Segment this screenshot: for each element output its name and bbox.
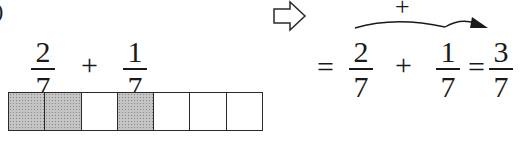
bar-model [8,92,263,131]
left-fraction-b-numerator: 1 [128,38,143,66]
right-fraction-a-numerator: 2 [354,38,369,66]
right-fraction-a-denominator: 7 [354,73,369,101]
right-fraction-a: 2 7 [349,38,373,101]
hollow-right-arrow-icon [272,0,308,34]
left-fraction-a-numerator: 2 [36,38,51,66]
bar-cell-3 [82,93,118,130]
bar-cell-7 [227,93,262,130]
bar-cell-1-shaded [9,93,45,130]
bar-cell-6 [190,93,226,130]
bar-cell-5 [154,93,190,130]
result-denominator: 7 [494,73,509,101]
bar-cell-2-shaded [45,93,81,130]
right-equals-1: = [317,52,334,82]
right-plus-operator: + [395,50,412,80]
result-fraction: 3 7 [489,38,513,101]
left-plus-operator: + [81,50,98,80]
bar-cell-4-shaded [118,93,154,130]
result-numerator: 3 [494,38,509,66]
corner-paren: ) [0,0,3,22]
curved-arrow-icon [350,14,500,36]
right-fraction-b: 1 7 [436,38,460,101]
right-equals-2: = [468,52,485,82]
right-fraction-b-numerator: 1 [441,38,456,66]
right-fraction-b-denominator: 7 [441,73,456,101]
